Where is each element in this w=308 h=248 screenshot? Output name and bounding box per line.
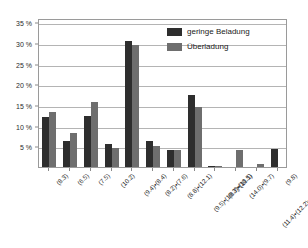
x-tick-mark (48, 168, 49, 171)
x-tick-label: (8.8)•(12.1) (185, 172, 213, 200)
x-tick-mark (131, 168, 132, 171)
x-axis: (8.3)(6.5)(7.5)(10.2)(9.4)•(8.4)(8.2)•(7… (0, 0, 308, 248)
x-tick-label: (9.8) (283, 172, 297, 186)
x-tick-mark (256, 168, 257, 171)
bar-chart: 5 %10 %15 %20 %25 %30 %35 % geringe Bela… (0, 0, 308, 248)
x-tick-mark (90, 168, 91, 171)
x-tick-label: (6.5) (76, 172, 90, 186)
x-tick-mark (214, 168, 215, 171)
x-tick-mark (194, 168, 195, 171)
x-tick-mark (277, 168, 278, 171)
x-tick-label: (10.2) (119, 172, 136, 189)
x-tick-mark (173, 168, 174, 171)
x-tick-label: (7.5) (97, 172, 111, 186)
x-tick-mark (152, 168, 153, 171)
x-tick-mark (69, 168, 70, 171)
x-tick-mark (235, 168, 236, 171)
x-tick-label: (8.3) (55, 172, 69, 186)
x-tick-mark (111, 168, 112, 171)
